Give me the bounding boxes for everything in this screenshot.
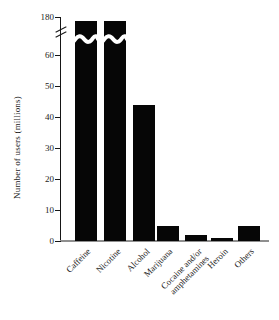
category-label-line: Caffeine <box>65 247 93 275</box>
bar-alcohol <box>133 105 155 241</box>
bar-others <box>238 226 260 242</box>
y-tick-label-50: 50 <box>22 82 54 91</box>
y-tick-label-40: 40 <box>22 113 54 122</box>
category-label-line: Nicotine <box>95 247 123 275</box>
y-tick-label-180: 180 <box>22 13 54 22</box>
y-tick-mark-0 <box>55 241 61 242</box>
category-label-heroin: Heroin <box>206 247 230 271</box>
y-tick-mark-30 <box>55 148 61 149</box>
y-axis-title-text: Number of users (millions) <box>12 96 22 199</box>
bar-heroin <box>211 238 233 241</box>
category-label-nicotine: Nicotine <box>95 247 123 275</box>
y-tick-mark-50 <box>55 86 61 87</box>
y-tick-label-0: 0 <box>22 237 54 246</box>
bar-caffeine <box>75 21 97 241</box>
category-label-line: Heroin <box>206 247 230 271</box>
y-tick-mark-10 <box>55 210 61 211</box>
y-axis-line <box>60 17 61 241</box>
y-tick-mark-180 <box>55 17 61 18</box>
y-tick-label-20: 20 <box>22 175 54 184</box>
bar-chart-figure: Number of users (millions) 0102030405060… <box>0 0 279 320</box>
axis-break-icon <box>55 27 67 37</box>
y-tick-label-60: 60 <box>22 51 54 60</box>
y-tick-label-10: 10 <box>22 206 54 215</box>
y-tick-label-30: 30 <box>22 144 54 153</box>
bar-marijuana <box>157 226 179 242</box>
category-label-line: Others <box>233 247 256 270</box>
bar-cocaine-and-or-amphetamines <box>185 235 207 241</box>
y-tick-mark-40 <box>55 117 61 118</box>
y-tick-mark-20 <box>55 179 61 180</box>
category-label-others: Others <box>233 247 256 270</box>
category-label-caffeine: Caffeine <box>65 247 93 275</box>
bar-nicotine <box>104 21 126 241</box>
y-tick-mark-60 <box>55 55 61 56</box>
